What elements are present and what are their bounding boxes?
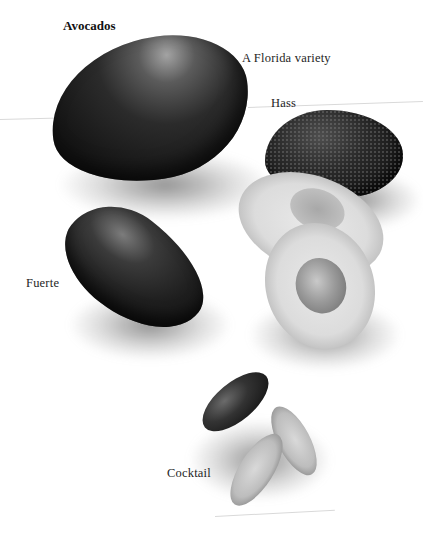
backdrop-bottom-line — [215, 510, 335, 517]
avocado-pit — [289, 251, 354, 320]
label-fuerte: Fuerte — [26, 276, 59, 291]
page-title: Avocados — [63, 18, 115, 34]
book-page: Avocados A Florida variety Hass Fuerte C… — [0, 0, 423, 534]
label-cocktail: Cocktail — [167, 466, 211, 481]
label-florida-variety: A Florida variety — [242, 51, 331, 66]
label-hass: Hass — [271, 96, 296, 111]
